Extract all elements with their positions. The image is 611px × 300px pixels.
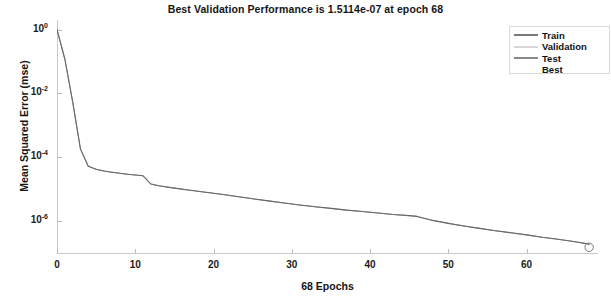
legend-item-train[interactable]: Train	[513, 29, 565, 41]
y-tick-label: 10-2	[0, 87, 48, 97]
x-tick-label: 20	[194, 259, 234, 270]
chart-legend: TrainValidationTestBest	[509, 26, 610, 74]
legend-swatch-train-icon	[513, 30, 539, 40]
y-tick-label: 100	[0, 24, 48, 34]
legend-item-test[interactable]: Test	[513, 52, 561, 64]
x-tick-label: 10	[115, 259, 155, 270]
x-axis-line	[57, 253, 598, 254]
legend-label: Best	[539, 64, 563, 75]
legend-label: Train	[539, 30, 565, 41]
legend-label: Test	[539, 53, 561, 64]
legend-swatch-best-icon	[513, 65, 539, 75]
x-tick-label: 50	[428, 259, 468, 270]
legend-label: Validation	[539, 41, 587, 52]
chart-title: Best Validation Performance is 1.5114e-0…	[0, 3, 611, 15]
x-tick-label: 60	[507, 259, 547, 270]
y-axis-label: Mean Squared Error (mse)	[18, 36, 30, 216]
legend-swatch-test-icon	[513, 53, 539, 63]
legend-swatch-validation-icon	[513, 42, 539, 52]
x-tick-label: 40	[350, 259, 390, 270]
legend-item-best[interactable]: Best	[513, 64, 563, 76]
x-axis-label: 68 Epochs	[57, 280, 598, 292]
legend-item-validation[interactable]: Validation	[513, 41, 587, 53]
x-tick-label: 0	[37, 259, 77, 270]
y-tick-label: 10-4	[0, 151, 48, 161]
x-tick-label: 30	[272, 259, 312, 270]
y-tick-label: 10-6	[0, 215, 48, 225]
chart-figure: Best Validation Performance is 1.5114e-0…	[0, 0, 611, 300]
